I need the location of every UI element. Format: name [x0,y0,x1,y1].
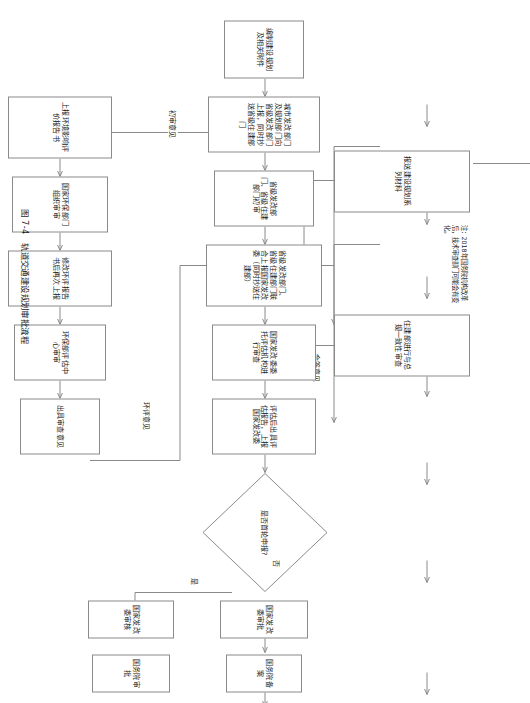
flowchart-canvas: 报送建设规划系列材料 注：2018年国务院机构改革后，技术审查部门可能会有变化。… [0,0,530,703]
node-label: 修改环评报告书后再次上报 [51,254,69,302]
node-ndrc-examination[interactable]: 国家发改委审核 [88,600,174,638]
figure-rotated-stage: 报送建设规划系列材料 注：2018年国务院机构改革后，技术审查部门可能会有变化。… [0,0,530,703]
node-label: 国务院审批 [122,658,140,688]
node-submit-eia-report[interactable]: 上报环境影响评价报告书 [8,96,112,158]
node-label: 国家发改委审核 [122,604,140,634]
edge-label-first-review-opinion: 初审意见 [168,108,178,138]
node-label: 出具审查意见 [56,404,65,447]
node-label: 国家环保部门组织审审 [51,180,69,228]
edge-label-eia-opinion: 环评意见 [142,400,152,430]
node-label: 上报环境影响评价报告书 [51,100,69,154]
node-label: 环保部评估中心审审 [51,328,69,376]
node-state-council-approval[interactable]: 国务院审批 [92,654,170,692]
node-issue-review-opinion[interactable]: 出具审查意见 [20,398,100,454]
figure-caption: 图 7-4 轨道交通建设规划审批流程 [20,208,32,344]
